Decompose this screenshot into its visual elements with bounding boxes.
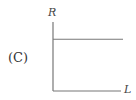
chart-plot-area <box>0 0 136 100</box>
